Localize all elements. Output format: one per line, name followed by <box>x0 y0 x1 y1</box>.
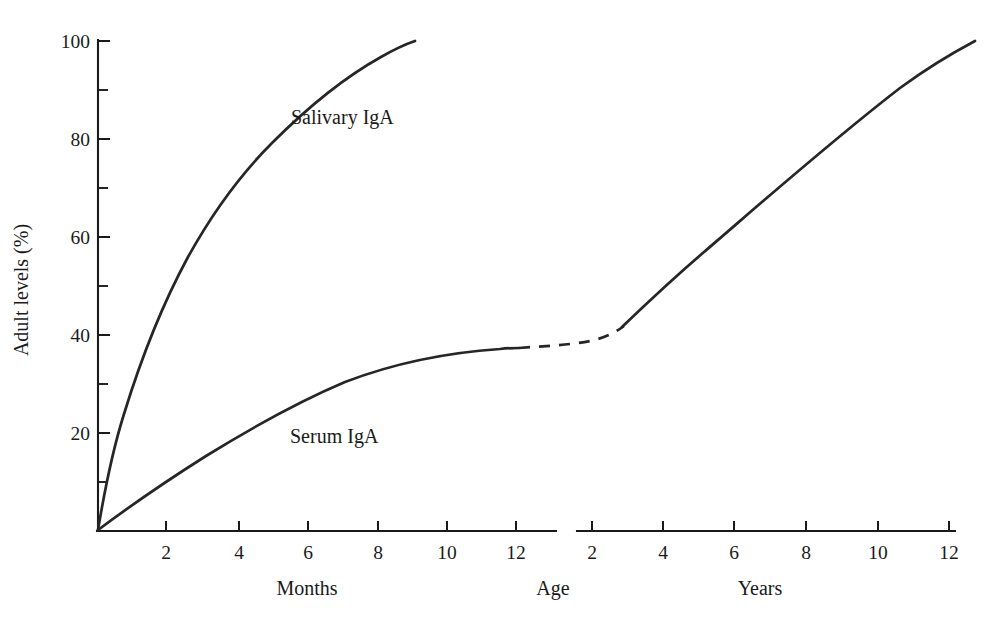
y-axis-group: 100 80 60 40 20 Adult levels (%) <box>10 31 110 531</box>
serum-iga-label: Serum IgA <box>290 425 379 448</box>
x-axis-title-age: Age <box>536 577 569 600</box>
months-tick-label-4: 4 <box>234 542 244 563</box>
years-tick-label-10: 10 <box>868 542 888 563</box>
months-tick-label-2: 2 <box>161 542 171 563</box>
years-tick-label-4: 4 <box>658 542 668 563</box>
serum-iga-transition-curve <box>519 326 624 348</box>
years-axis-group: 2 4 6 8 10 12 Years <box>577 521 959 599</box>
years-tick-label-12: 12 <box>939 542 959 563</box>
chart-figure: 100 80 60 40 20 Adult levels (%) 2 4 6 8… <box>0 0 998 625</box>
serum-iga-childhood-curve <box>622 41 975 327</box>
series-serum-iga-transition <box>519 326 624 348</box>
y-tick-label-100: 100 <box>61 31 90 52</box>
months-tick-label-12: 12 <box>506 542 526 563</box>
months-axis-title: Months <box>276 577 337 599</box>
y-axis-title: Adult levels (%) <box>10 224 33 356</box>
y-tick-label-60: 60 <box>71 227 91 248</box>
salivary-iga-label: Salivary IgA <box>291 106 394 129</box>
months-tick-label-8: 8 <box>373 542 383 563</box>
y-tick-label-80: 80 <box>71 129 91 150</box>
years-tick-label-8: 8 <box>801 542 811 563</box>
series-serum-iga-childhood <box>622 41 975 327</box>
chart-canvas: 100 80 60 40 20 Adult levels (%) 2 4 6 8… <box>0 0 998 625</box>
months-tick-label-10: 10 <box>437 542 457 563</box>
years-tick-label-2: 2 <box>587 542 597 563</box>
years-axis-title: Years <box>738 577 783 599</box>
years-tick-label-6: 6 <box>729 542 739 563</box>
months-tick-label-6: 6 <box>303 542 313 563</box>
y-tick-label-40: 40 <box>71 325 91 346</box>
months-axis-group: 2 4 6 8 10 12 Months <box>97 521 556 599</box>
y-tick-label-20: 20 <box>71 423 91 444</box>
